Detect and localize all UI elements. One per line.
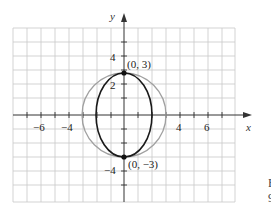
point-bottom [121, 154, 126, 159]
point-label-bottom: (0, −3) [128, 158, 158, 171]
figure: −6 −4 4 6 4 2 −4 (0, 3) (0, −3) x y [0, 0, 271, 214]
caption-fragment-b: 9 [268, 191, 271, 206]
y-axis-arrow-icon [121, 13, 127, 22]
axes [13, 13, 252, 202]
point-top [121, 70, 126, 75]
y-tick-label-2: 2 [110, 79, 116, 91]
point-label-top: (0, 3) [127, 58, 151, 71]
caption-fragment-a: F [268, 176, 271, 191]
x-tick-label-4: 4 [176, 121, 182, 133]
y-tick-label-4: 4 [110, 51, 116, 63]
x-tick-label-m4: −4 [61, 121, 73, 133]
x-axis-label: x [245, 121, 251, 133]
x-axis-arrow-icon [243, 112, 252, 118]
x-tick-label-m6: −6 [33, 121, 45, 133]
x-tick-label-6: 6 [204, 121, 210, 133]
y-axis-label: y [109, 10, 115, 22]
y-tick-label-m4: −4 [104, 164, 116, 176]
